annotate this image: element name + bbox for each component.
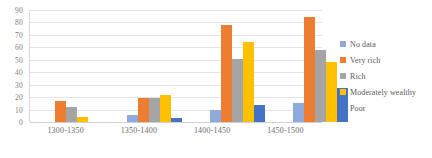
bar[interactable] [210,110,221,122]
chart-legend: No dataVery richRichModerately wealthyPo… [340,36,432,116]
legend-label: Rich [350,72,366,81]
legend-item[interactable]: Moderately wealthy [340,84,432,100]
y-axis-tick-label: 80 [15,18,23,27]
bar[interactable] [66,107,77,122]
legend-swatch-icon [340,73,346,79]
bar-group [196,10,279,122]
x-axis-tick-label: 1450-1500 [249,126,322,135]
legend-swatch-icon [340,89,346,95]
y-axis-tick-label: 20 [15,93,23,102]
bar[interactable] [232,59,243,122]
bar[interactable] [293,103,304,122]
y-axis-tick-label: 90 [15,6,23,15]
legend-label: Moderately wealthy [350,88,416,97]
legend-swatch-icon [340,41,346,47]
bar[interactable] [149,98,160,122]
legend-item[interactable]: Poor [340,100,432,116]
bar-group [30,10,113,122]
legend-item[interactable]: No data [340,36,432,52]
bar[interactable] [304,17,315,122]
bar[interactable] [55,101,66,122]
plot-area [29,10,322,122]
bar[interactable] [315,50,326,122]
bar[interactable] [160,95,171,122]
y-axis-tick-label: 70 [15,30,23,39]
y-axis-tick-label: 60 [15,43,23,52]
bar[interactable] [243,42,254,122]
bar[interactable] [221,25,232,122]
x-axis-tick-label: 1350-1400 [102,126,175,135]
bar[interactable] [138,98,149,122]
legend-label: No data [350,40,376,49]
y-axis: 0102030405060708090 [0,10,26,122]
y-axis-tick-label: 10 [15,105,23,114]
y-axis-tick-label: 30 [15,80,23,89]
y-axis-tick-label: 0 [19,118,23,127]
legend-item[interactable]: Very rich [340,52,432,68]
bar[interactable] [254,105,265,122]
plot-wrapper: 0102030405060708090 1300-13501350-140014… [0,0,330,158]
legend-swatch-icon [340,57,346,63]
bar[interactable] [127,115,138,122]
gridline [30,122,322,123]
x-axis-tick-label: 1400-1450 [176,126,249,135]
legend-label: Very rich [350,56,380,65]
legend-item[interactable]: Rich [340,68,432,84]
x-axis-tick-label: 1300-1350 [29,126,102,135]
bar-chart: 0102030405060708090 1300-13501350-140014… [0,0,432,158]
bar[interactable] [77,117,88,122]
bar[interactable] [171,118,182,122]
bar-groups [30,10,322,122]
bar-group [113,10,196,122]
y-axis-tick-label: 50 [15,55,23,64]
y-axis-tick-label: 40 [15,68,23,77]
legend-label: Poor [350,104,366,113]
x-axis: 1300-13501350-14001400-14501450-1500 [29,126,322,135]
legend-swatch-icon [340,105,346,111]
bar[interactable] [326,62,337,122]
